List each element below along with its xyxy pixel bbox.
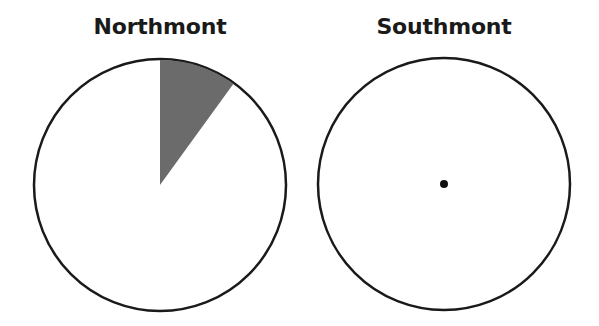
southmont-center-dot (440, 180, 448, 188)
pie-charts (0, 0, 599, 326)
northmont-pie (34, 59, 286, 311)
southmont-pie (318, 58, 570, 310)
